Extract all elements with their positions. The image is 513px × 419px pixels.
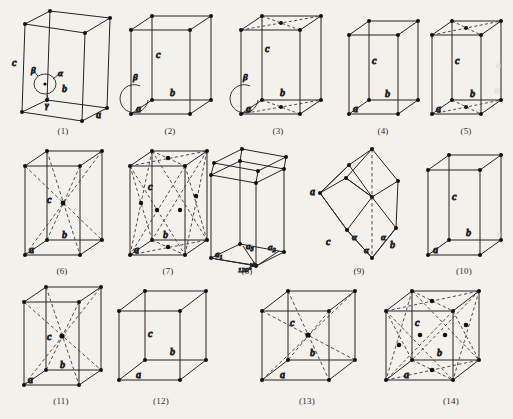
unit-cell-7-orthorhombic-face-centered: c b a [128, 149, 209, 257]
label-a-cell6: a [29, 244, 34, 255]
label-a-cell2: a [136, 103, 141, 114]
caption-cell-11: (11) [31, 396, 91, 406]
label-b-cell13: b [310, 347, 315, 358]
label-b-cell6: b [62, 229, 67, 240]
unit-cell-13-cubic-body-centered: c b a [260, 289, 357, 382]
label-c-cell5: c [455, 55, 460, 66]
label-b-cell14: b [437, 347, 442, 358]
label-alpha1-cell9: α [352, 232, 357, 242]
unit-cell-6-orthorhombic-body-centered: c b a [23, 149, 104, 257]
unit-cell-14-cubic-face-centered: c b a [384, 289, 481, 382]
label-c-cell2: c [156, 49, 161, 60]
caption-cell-5: (5) [436, 126, 496, 136]
label-gamma-cell1: γ [45, 100, 49, 110]
label-c-cell1: c [12, 57, 17, 68]
caption-cell-10: (10) [434, 266, 494, 276]
label-c-cell14: c [415, 317, 420, 328]
unit-cell-12-cubic-primitive: c b a [117, 289, 208, 382]
label-beta-cell2: β [132, 72, 138, 82]
label-beta-cell3: β [242, 72, 248, 82]
caption-cell-3: (3) [248, 126, 308, 136]
label-a-cell13: a [280, 369, 285, 380]
label-c-cell12: c [148, 328, 153, 339]
label-c-cell3: c [265, 43, 270, 54]
caption-cell-7: (7) [138, 266, 198, 276]
label-a3-cell8: a3 [246, 241, 254, 252]
label-c-cell10: c [452, 191, 457, 202]
label-c-cell13: c [290, 317, 295, 328]
unit-cell-11-tetragonal-body-centered: c b a [22, 285, 103, 387]
label-beta-cell1: β [30, 65, 36, 75]
label-alpha3-cell9: α [364, 245, 369, 255]
scan-speck [496, 63, 501, 69]
unit-cell-10-tetragonal-primitive: c b a [426, 153, 503, 257]
caption-cell-12: (12) [131, 396, 191, 406]
label-a2-cell8: a2 [268, 242, 276, 253]
scan-speck [497, 232, 501, 237]
caption-cell-14: (14) [421, 396, 481, 406]
unit-cell-3-monoclinic-base-centered: β c b a [230, 14, 323, 116]
caption-cell-8: (8) [217, 266, 277, 276]
label-b-cell1: b [62, 83, 67, 94]
label-b-cell10: b [466, 227, 471, 238]
bravais-lattice-figure-sheet: c b a β α γ β c b a [0, 0, 513, 419]
caption-cell-9: (9) [329, 266, 389, 276]
label-b-cell3: b [280, 87, 285, 98]
unit-cell-5-orthorhombic-base-centered: c b a [430, 19, 503, 116]
caption-cell-4: (4) [353, 126, 413, 136]
label-c-cell9: c [326, 236, 331, 247]
label-a-cell14: a [404, 369, 409, 380]
unit-cell-4-orthorhombic-primitive: c b a [347, 19, 420, 116]
unit-cell-8-hexagonal-primitive: a1 a3 a2 120° [209, 147, 288, 274]
label-b-cell11: b [60, 359, 65, 370]
label-c-cell7: c [148, 181, 153, 192]
label-a-cell10: a [433, 244, 438, 255]
lattice-diagrams-canvas: c b a β α γ β c b a [0, 0, 513, 419]
label-c-cell11: c [47, 331, 52, 342]
label-b-cell5: b [470, 88, 475, 99]
caption-cell-13: (13) [277, 396, 337, 406]
label-c-cell6: c [47, 194, 52, 205]
label-b-cell9: b [390, 239, 395, 250]
label-b-cell2: b [170, 87, 175, 98]
unit-cell-9-rhombohedral-primitive: a c b α α α [310, 147, 400, 260]
label-a-cell9: a [310, 186, 315, 197]
label-a-cell4: a [353, 103, 358, 114]
label-alpha2-cell9: α [381, 232, 386, 242]
unit-cell-2-monoclinic-primitive: β c b a [120, 14, 213, 116]
label-a-cell11: a [28, 374, 33, 385]
label-b-cell7: b [163, 229, 168, 240]
label-a-cell12: a [136, 369, 141, 380]
label-a-cell7: a [134, 244, 139, 255]
label-a-cell5: a [436, 103, 441, 114]
label-a1-cell8: a1 [215, 249, 223, 260]
label-a-cell3: a [246, 103, 251, 114]
unit-cell-1-triclinic-primitive: c b a β α γ [12, 9, 112, 123]
caption-cell-6: (6) [32, 266, 92, 276]
label-a-cell1: a [96, 109, 101, 120]
label-c-cell4: c [372, 55, 377, 66]
scan-speck [300, 403, 303, 406]
caption-cell-2: (2) [140, 126, 200, 136]
label-b-cell4: b [385, 88, 390, 99]
scan-speck [494, 88, 500, 94]
caption-cell-1: (1) [33, 126, 93, 136]
label-b-cell12: b [170, 346, 175, 357]
label-alpha-cell1: α [58, 68, 63, 78]
